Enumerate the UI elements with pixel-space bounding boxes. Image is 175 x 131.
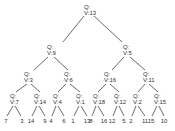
node-v-label: V:4 <box>53 99 62 105</box>
tree-node: Q:V:2 <box>133 93 142 105</box>
node-v-label: V:7 <box>10 99 19 105</box>
tree-node: Q:V:1 <box>76 93 85 105</box>
tree-node: Q:V:7 <box>10 93 19 105</box>
leaf-value: 2 <box>125 118 137 124</box>
tree-node: Q:V:12 <box>114 93 126 105</box>
tree-node: Q:V:6 <box>64 71 73 83</box>
tree-edges <box>0 0 175 131</box>
tree-node: Q:V:5 <box>123 44 132 56</box>
node-v-label: V:3 <box>24 77 33 83</box>
node-v-label: V:12 <box>114 99 126 105</box>
leaf-value: 14 <box>25 118 37 124</box>
tree-node: Q:V:13 <box>84 4 96 16</box>
tree-node: Q:V:18 <box>93 93 105 105</box>
node-v-label: V:5 <box>123 50 132 56</box>
leaf-value: 15 <box>145 118 157 124</box>
node-v-label: V:16 <box>104 77 116 83</box>
tree-node: Q:V:11 <box>143 71 155 83</box>
tree-node: Q:V:15 <box>154 93 166 105</box>
node-v-label: V:15 <box>154 99 166 105</box>
node-v-label: V:1 <box>76 99 85 105</box>
leaf-value: 8 <box>85 118 97 124</box>
leaf-value: 7 <box>0 118 12 124</box>
node-v-label: V:6 <box>64 77 73 83</box>
leaf-value: 12 <box>106 118 118 124</box>
leaf-value: 10 <box>158 118 170 124</box>
node-v-label: V:13 <box>84 10 96 16</box>
leaf-value: 1 <box>67 118 79 124</box>
tree-node: Q:V:14 <box>34 93 46 105</box>
tree-node: Q:V:4 <box>53 93 62 105</box>
node-v-label: V:14 <box>34 99 46 105</box>
tree-node: Q:V:3 <box>24 71 33 83</box>
node-v-label: V:11 <box>143 77 155 83</box>
node-v-label: V:18 <box>93 99 105 105</box>
node-v-label: V:9 <box>47 50 56 56</box>
node-v-label: V:2 <box>133 99 142 105</box>
leaf-value: 4 <box>45 118 57 124</box>
tree-node: Q:V:9 <box>47 44 56 56</box>
tree-node: Q:V:16 <box>104 71 116 83</box>
